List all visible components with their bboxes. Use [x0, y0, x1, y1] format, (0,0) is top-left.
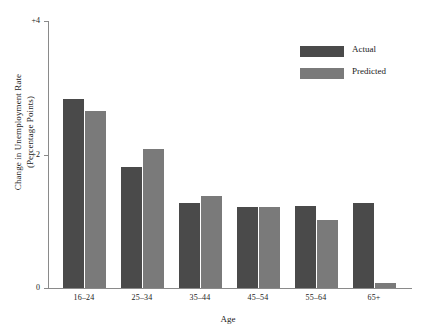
x-axis-category-label: 55–64	[286, 293, 346, 302]
bar-group	[63, 21, 106, 288]
bar-actual	[353, 203, 374, 288]
y-axis-title-line2: (Percentage Points)	[24, 22, 36, 242]
y-axis-tick	[44, 288, 48, 289]
bar-predicted	[317, 220, 338, 288]
bar-predicted	[143, 149, 164, 288]
y-axis-title-line1: Change in Unemployment Rate	[12, 22, 24, 242]
x-axis-category-label: 45–54	[228, 293, 288, 302]
bar-actual	[179, 203, 200, 288]
legend-swatch-actual	[300, 46, 344, 57]
y-axis-tick-label: +4	[14, 17, 40, 25]
x-axis-category-label: 25–34	[112, 293, 172, 302]
plot-area	[48, 21, 408, 288]
y-axis-tick-label: +2	[14, 151, 40, 159]
bar-actual	[121, 167, 142, 288]
bar-actual	[295, 206, 316, 288]
bar-predicted	[201, 196, 222, 288]
x-axis-title: Age	[48, 314, 408, 324]
bar-predicted	[375, 283, 396, 288]
chart-figure: Change in Unemployment Rate (Percentage …	[0, 0, 424, 335]
x-axis-category-label: 16–24	[54, 293, 114, 302]
y-axis-tick-label: 0	[14, 284, 40, 292]
bar-group	[179, 21, 222, 288]
x-axis-line	[48, 288, 412, 289]
bar-actual	[63, 99, 84, 288]
bar-group	[353, 21, 396, 288]
bar-predicted	[259, 207, 280, 288]
legend-swatch-predicted	[300, 68, 344, 79]
x-axis-category-label: 65+	[344, 293, 404, 302]
legend-label-actual: Actual	[352, 44, 376, 54]
bar-group	[237, 21, 280, 288]
bar-predicted	[85, 111, 106, 288]
legend-label-predicted: Predicted	[352, 66, 386, 76]
bar-actual	[237, 207, 258, 288]
bar-group	[121, 21, 164, 288]
y-axis-title: Change in Unemployment Rate (Percentage …	[12, 22, 36, 242]
x-axis-category-label: 35–44	[170, 293, 230, 302]
bar-group	[295, 21, 338, 288]
